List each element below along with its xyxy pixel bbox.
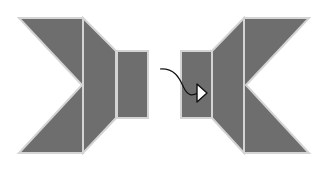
- left-figure: [19, 18, 148, 153]
- tangram-diagram: [0, 0, 324, 174]
- right-big-piece: [244, 18, 309, 153]
- right-trapezoid: [212, 18, 244, 153]
- left-trapezoid: [83, 18, 116, 153]
- left-big-piece: [19, 18, 83, 153]
- left-rectangle: [117, 51, 148, 118]
- right-figure: [181, 18, 309, 153]
